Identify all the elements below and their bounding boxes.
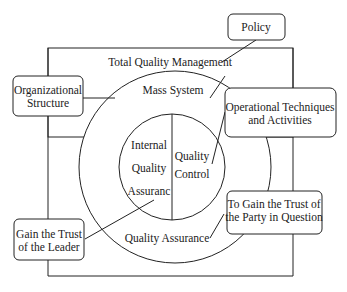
leader-line2: of the Leader <box>18 241 79 253</box>
policy-label: Policy <box>241 21 271 34</box>
tqm-label: Total Quality Management <box>108 56 233 69</box>
party-line2: the Party in Question <box>225 211 323 224</box>
org-structure-box <box>13 76 83 116</box>
diagram-canvas: Total Quality Management Mass System Int… <box>0 0 347 292</box>
ops-line2: and Activities <box>248 114 312 126</box>
internal-qa-line2: Quality <box>132 162 167 175</box>
org-line1: Organizational <box>14 84 82 97</box>
mass-system-label: Mass System <box>142 84 203 97</box>
quality-control-line2: Control <box>174 168 209 180</box>
party-line1: To Gain the Trust of <box>227 198 320 210</box>
org-line2: Structure <box>27 97 69 109</box>
leader-line1: Gain the Trust <box>16 228 83 240</box>
internal-qa-line3: Assuranc <box>128 185 171 197</box>
tqm-diagram: Total Quality Management Mass System Int… <box>0 0 347 292</box>
internal-qa-line1: Internal <box>131 139 167 151</box>
quality-assurance-label: Quality Assurance <box>125 232 210 245</box>
ops-line1: Operational Techniques <box>225 101 335 114</box>
quality-control-line1: Quality <box>175 150 210 163</box>
